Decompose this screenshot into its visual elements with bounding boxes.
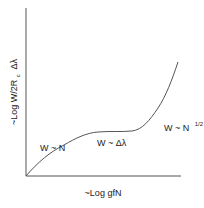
x-axis-label: ~Log gfN	[85, 188, 122, 198]
y-axis-label-suffix: Δλ	[9, 59, 19, 70]
region-label-flat: W ~ Δλ	[97, 138, 127, 148]
region-label-square-root: W ~ N 1/2	[164, 121, 204, 133]
region-label-square-root-exponent: 1/2	[195, 121, 204, 127]
y-axis-label: ~Log W/2R c Δλ	[9, 59, 22, 125]
y-axis-label-subscript: c	[15, 74, 21, 77]
growth-curve	[26, 62, 178, 176]
y-axis-label-prefix: ~Log W/2R	[9, 79, 19, 125]
region-label-square-root-base: W ~ N	[164, 123, 189, 133]
curve-of-growth-diagram: W ~ N W ~ Δλ W ~ N 1/2 ~Log gfN ~Log W/2…	[0, 0, 204, 208]
region-label-linear: W ~ N	[40, 143, 65, 153]
